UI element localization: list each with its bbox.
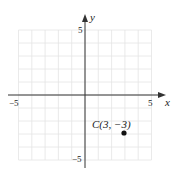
- y-axis-label: y: [89, 11, 95, 23]
- point-c: [121, 130, 126, 135]
- y-max-tick-label: 5: [78, 25, 83, 35]
- y-axis-arrow-icon: [82, 14, 88, 22]
- coordinate-plane: x y −5 5 5 −5 C(3, −3): [0, 0, 181, 175]
- y-min-tick-label: −5: [72, 154, 82, 164]
- point-c-label: C(3, −3): [92, 118, 131, 131]
- x-axis-label: x: [164, 96, 170, 108]
- x-max-tick-label: 5: [148, 98, 153, 108]
- x-min-tick-label: −5: [9, 98, 19, 108]
